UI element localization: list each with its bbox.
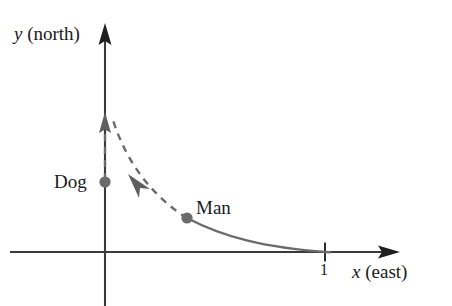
x-axis-tick-label-1: 1 bbox=[320, 262, 328, 278]
pursuit-direction-arrowhead bbox=[128, 174, 150, 198]
y-axis-label-direction: (north) bbox=[22, 23, 80, 44]
x-axis-label-direction: (east) bbox=[360, 261, 407, 282]
x-axis-label: x (east) bbox=[352, 262, 407, 281]
dog-point-label: Dog bbox=[54, 172, 87, 191]
man-point-marker bbox=[181, 212, 192, 223]
man-path-solid-curve bbox=[187, 218, 330, 252]
pursuit-curve-figure: y (north) x (east) Dog Man 1 bbox=[0, 0, 452, 306]
dog-pursuit-dashed-curve bbox=[113, 120, 187, 218]
axes-group bbox=[10, 23, 400, 306]
y-axis-label: y (north) bbox=[14, 24, 80, 43]
man-point-label: Man bbox=[196, 198, 231, 217]
dog-point-marker bbox=[99, 176, 110, 187]
